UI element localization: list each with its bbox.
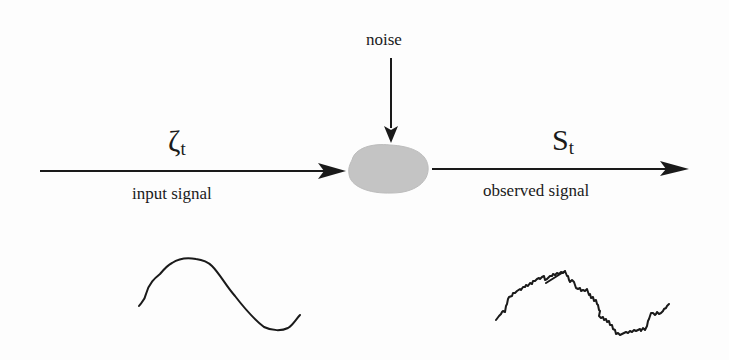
input-symbol-subscript: t xyxy=(180,138,185,159)
input-signal-label: input signal xyxy=(132,184,212,204)
input-arrow xyxy=(40,163,346,179)
noise-label: noise xyxy=(366,30,402,50)
input-symbol: ζt xyxy=(168,124,186,160)
output-symbol: St xyxy=(552,123,574,159)
clean-sine-wave xyxy=(139,258,300,330)
diagram-graphics xyxy=(0,0,729,360)
noise-blob xyxy=(349,145,428,194)
signal-noise-diagram: noise ζt input signal St observed signal xyxy=(0,0,729,360)
noise-arrow xyxy=(384,58,398,143)
observed-signal-label: observed signal xyxy=(483,181,589,201)
output-symbol-subscript: t xyxy=(569,137,574,158)
output-arrow xyxy=(432,161,689,176)
output-symbol-main: S xyxy=(552,123,569,156)
noisy-sine-wave xyxy=(496,271,669,335)
input-symbol-main: ζ xyxy=(168,124,180,157)
